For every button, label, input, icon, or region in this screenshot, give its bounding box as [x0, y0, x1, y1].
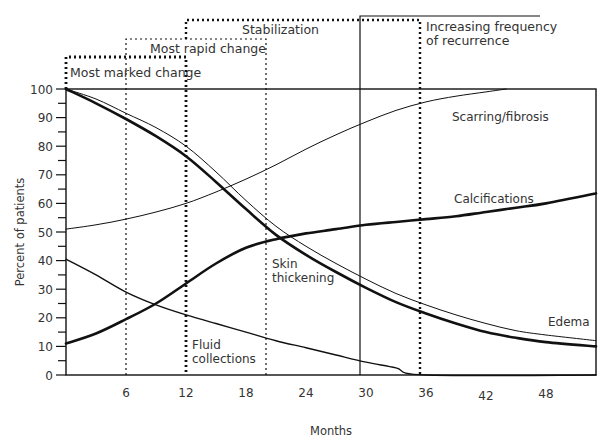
phase-recurrence-label-line2: of recurrence [426, 33, 510, 48]
y-tick-label: 60 [38, 197, 53, 211]
series-label-edema: Edema [548, 315, 590, 329]
x-tick-label: 24 [298, 386, 313, 400]
series-label-fluid-line2: collections [192, 352, 256, 366]
y-axis: 0102030405060708090100 [30, 83, 66, 383]
y-tick-label: 70 [38, 168, 53, 182]
phase-stabilization-bracket [186, 20, 420, 375]
plot-frame [66, 89, 596, 375]
series-label-skin-line2: thickening [272, 271, 334, 285]
y-tick-label: 40 [38, 254, 53, 268]
x-axis: 612182430364248 [122, 386, 553, 403]
x-tick-label: 6 [122, 386, 130, 400]
phase-stabilization-label: Stabilization [242, 22, 319, 37]
y-tick-label: 50 [38, 226, 53, 240]
y-tick-label: 0 [45, 369, 53, 383]
series-label-fluid-line1: Fluid [192, 338, 221, 352]
phase-most-marked-label: Most marked change [70, 65, 201, 80]
phase-most-rapid-label: Most rapid change [150, 41, 266, 56]
series-line-scarring-fibrosis [66, 89, 506, 229]
series-line-skin-thickening [66, 89, 596, 346]
y-axis-title: Percent of patients [13, 178, 27, 287]
series-label-scarring: Scarring/fibrosis [452, 110, 549, 124]
x-tick-label: 42 [478, 389, 493, 403]
series-lines [66, 89, 596, 376]
x-tick-label: 18 [238, 386, 253, 400]
series-label-calcifications: Calcifications [454, 192, 534, 206]
y-tick-label: 80 [38, 140, 53, 154]
y-tick-label: 90 [38, 111, 53, 125]
phase-recurrence-label-line1: Increasing frequency [426, 19, 558, 34]
x-tick-label: 36 [418, 386, 433, 400]
chart: Most marked change Most rapid change Sta… [0, 0, 613, 446]
x-tick-label: 30 [358, 386, 373, 400]
x-axis-title: Months [310, 424, 352, 438]
x-tick-label: 48 [538, 387, 553, 401]
y-tick-label: 100 [30, 83, 53, 97]
y-tick-label: 20 [38, 311, 53, 325]
series-label-skin-line1: Skin [272, 257, 298, 271]
y-tick-label: 30 [38, 283, 53, 297]
x-tick-label: 12 [178, 386, 193, 400]
y-tick-label: 10 [38, 340, 53, 354]
